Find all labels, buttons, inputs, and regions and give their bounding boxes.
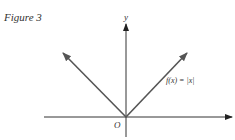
function-label: f(x) = |x| xyxy=(166,76,194,85)
absolute-value-graph: y O f(x) = |x| xyxy=(0,0,235,140)
left-ray xyxy=(63,53,126,117)
right-ray xyxy=(126,53,187,117)
origin-label: O xyxy=(114,120,121,130)
y-axis-label: y xyxy=(123,12,128,22)
